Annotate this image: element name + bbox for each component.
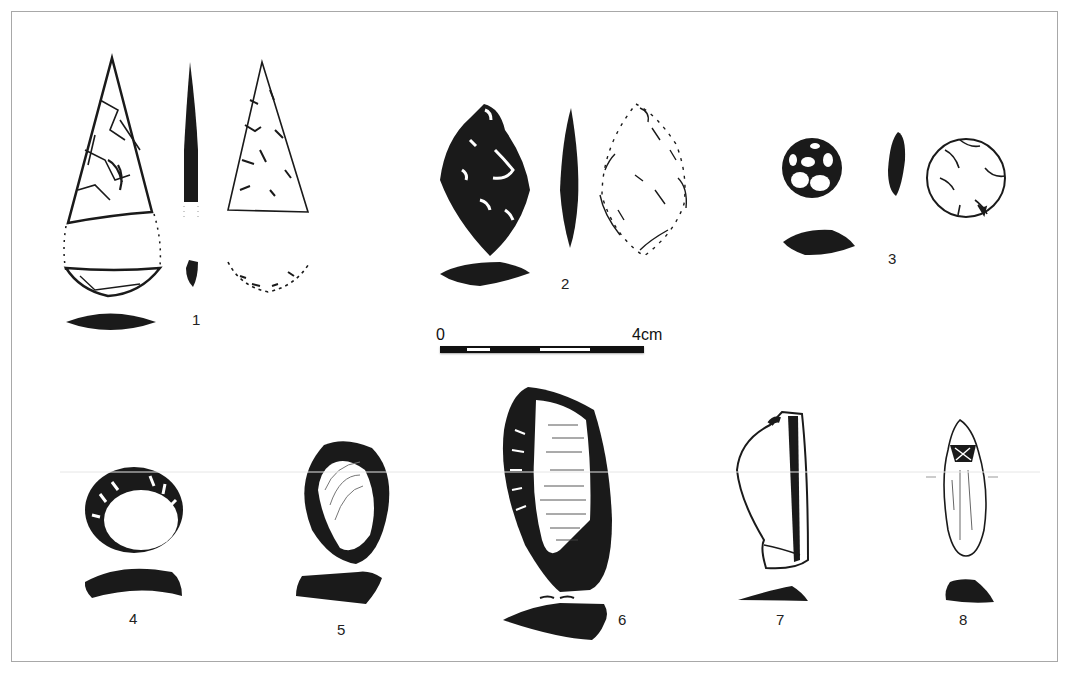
artifact-8 xyxy=(926,420,998,603)
artifact-label-8: 8 xyxy=(959,612,967,627)
artifact-label-5: 5 xyxy=(337,622,345,637)
artifact-label-1: 1 xyxy=(192,312,200,327)
scale-end-label: 4cm xyxy=(632,327,662,343)
artifact-1-back-view xyxy=(228,62,310,292)
artifact-8-section xyxy=(946,579,995,602)
artifact-5-section xyxy=(296,572,382,604)
artifact-label-6: 6 xyxy=(618,612,626,627)
artifact-4 xyxy=(85,467,183,598)
scale-segment xyxy=(490,346,540,353)
artifact-4-section xyxy=(85,569,182,598)
artifact-3 xyxy=(782,132,1005,255)
artifact-2-back-view xyxy=(600,104,686,256)
artifact-drawings xyxy=(0,0,1068,673)
artifact-2-profile-view xyxy=(560,108,578,248)
scale-start-label: 0 xyxy=(436,327,445,343)
scale-segment xyxy=(467,346,490,353)
scale-segment xyxy=(440,346,467,353)
artifact-label-7: 7 xyxy=(776,612,784,627)
artifact-2 xyxy=(440,104,686,286)
artifact-1-section xyxy=(66,314,156,331)
artifact-1-face-view xyxy=(64,58,160,296)
scale-bar xyxy=(440,346,644,353)
artifact-7-section xyxy=(738,586,808,601)
artifact-6 xyxy=(503,387,612,640)
artifact-2-section xyxy=(440,262,530,286)
artifact-1-profile-view xyxy=(184,62,198,287)
artifact-2-face-view xyxy=(440,104,530,256)
artifact-3-back-view xyxy=(927,139,1005,217)
artifact-label-2: 2 xyxy=(561,276,569,291)
artifact-5 xyxy=(296,441,389,604)
artifact-7 xyxy=(737,412,808,601)
artifact-3-profile-view xyxy=(888,132,905,196)
artifact-6-section xyxy=(503,603,607,640)
artifact-label-4: 4 xyxy=(129,611,137,626)
scale-segment xyxy=(590,346,644,353)
artifact-label-3: 3 xyxy=(888,251,896,266)
artifact-3-section xyxy=(783,230,855,255)
artifact-1 xyxy=(64,58,310,330)
scale-segment xyxy=(540,346,590,353)
